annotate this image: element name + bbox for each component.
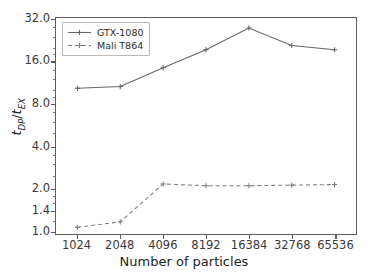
data-point-marker xyxy=(118,219,123,224)
y-axis-tick-label: 32.0 xyxy=(6,11,50,25)
x-axis-tick-label: 8192 xyxy=(191,238,220,252)
data-point-marker xyxy=(75,225,80,230)
y-axis-tick-label: 16.0 xyxy=(6,53,50,67)
data-point-marker xyxy=(246,183,251,188)
data-point-marker xyxy=(289,183,294,188)
legend: GTX-1080Mali T864 xyxy=(62,22,150,56)
legend-label: Mali T864 xyxy=(97,40,143,51)
y-axis-tick-label: 1.0 xyxy=(6,224,50,238)
data-point-marker xyxy=(332,47,337,52)
legend-label: GTX-1080 xyxy=(97,27,143,38)
y-axis-label: tDP/tEX xyxy=(9,77,27,157)
series-line-mali-t864 xyxy=(77,184,334,227)
x-axis-tick-label: 1024 xyxy=(62,238,91,252)
data-point-marker xyxy=(246,25,251,30)
data-point-marker xyxy=(203,47,208,52)
x-axis-tick-label: 32768 xyxy=(274,238,311,252)
data-point-marker xyxy=(161,65,166,70)
y-axis-tick-label: 1.4 xyxy=(6,203,50,217)
x-axis-tick-mark xyxy=(292,235,293,239)
x-axis-tick-mark xyxy=(120,235,121,239)
legend-item[interactable]: Mali T864 xyxy=(67,39,143,52)
legend-line-swatch-icon xyxy=(67,27,92,38)
x-axis-tick-mark xyxy=(335,235,336,239)
data-point-marker xyxy=(75,86,80,91)
x-axis-tick-label: 4096 xyxy=(148,238,177,252)
x-axis-tick-label: 16384 xyxy=(231,238,268,252)
x-axis-tick-mark xyxy=(77,235,78,239)
data-point-marker xyxy=(118,84,123,89)
data-point-marker xyxy=(289,43,294,48)
legend-item[interactable]: GTX-1080 xyxy=(67,26,143,39)
x-axis-tick-mark xyxy=(249,235,250,239)
x-axis-tick-mark xyxy=(163,235,164,239)
data-point-marker xyxy=(77,30,82,35)
data-point-marker xyxy=(332,182,337,187)
y-axis-tick-label: 2.0 xyxy=(6,181,50,195)
x-axis-tick-mark xyxy=(206,235,207,239)
chart-figure: 1.01.42.04.08.016.032.0 1024204840968192… xyxy=(0,0,368,276)
data-point-marker xyxy=(77,43,82,48)
x-axis-label: Number of particles xyxy=(0,254,368,269)
legend-line-swatch-icon xyxy=(67,40,92,51)
data-point-marker xyxy=(203,183,208,188)
x-axis-tick-label: 2048 xyxy=(105,238,134,252)
x-axis-tick-label: 65536 xyxy=(317,238,354,252)
